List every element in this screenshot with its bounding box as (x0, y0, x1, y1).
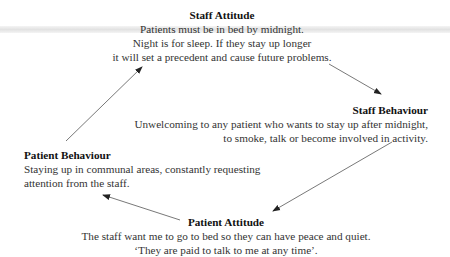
node-title: Patient Behaviour (24, 148, 260, 162)
arrow-staff-attitude-to-staff-behaviour (329, 64, 381, 94)
node-text: to smoke, talk or become involved in act… (134, 131, 428, 145)
node-title: Staff Behaviour (134, 103, 428, 117)
node-text: it will set a precedent and cause future… (0, 50, 447, 64)
node-text: ‘They are paid to talk to me at any time… (1, 243, 450, 257)
node-text: Night is for sleep. If they stay up long… (0, 36, 447, 50)
arrow-patient-behaviour-to-staff-attitude (66, 67, 142, 141)
node-patient-attitude: Patient Attitude The staff want me to go… (0, 215, 450, 257)
node-staff-attitude: Staff Attitude Patients must be in bed b… (0, 8, 450, 64)
node-text: The staff want me to go to bed so they c… (1, 229, 450, 243)
node-text: Staying up in communal areas, constantly… (24, 162, 260, 176)
node-staff-behaviour: Staff Behaviour Unwelcoming to any patie… (134, 103, 428, 145)
node-text: attention from the staff. (24, 176, 260, 190)
arrow-staff-behaviour-to-patient-attitude (273, 142, 392, 211)
node-patient-behaviour: Patient Behaviour Staying up in communal… (24, 148, 260, 190)
node-title: Patient Attitude (1, 215, 450, 229)
node-text: Patients must be in bed by midnight. (0, 22, 447, 36)
node-text: Unwelcoming to any patient who wants to … (134, 117, 428, 131)
node-title: Staff Attitude (0, 8, 447, 22)
